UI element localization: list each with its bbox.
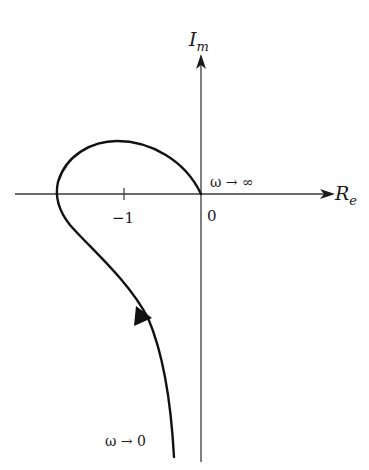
- tick-label-minus-one: −1: [112, 209, 134, 227]
- tick-label-origin: 0: [207, 207, 217, 225]
- nyquist-curve: [57, 141, 201, 457]
- real-axis-label: Re: [334, 182, 357, 208]
- omega-zero-label: ω → 0: [105, 433, 146, 449]
- omega-infinity-label: ω → ∞: [210, 174, 254, 190]
- nyquist-diagram: Im Re −1 0 ω → ∞ ω → 0: [0, 0, 369, 470]
- imag-axis-label: Im: [188, 28, 209, 54]
